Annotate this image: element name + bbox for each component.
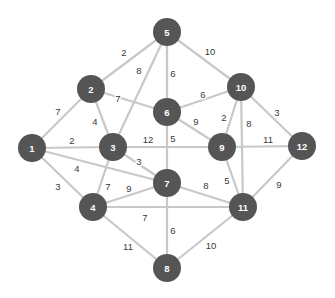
edge-weight-label: 9: [193, 116, 198, 127]
graph-node-3[interactable]: 3: [99, 133, 127, 161]
edge-weight-label: 8: [246, 118, 251, 129]
node-label: 11: [238, 202, 249, 213]
node-label: 1: [29, 143, 35, 154]
edge-weight-label: 7: [142, 212, 147, 223]
graph-node-2[interactable]: 2: [77, 75, 105, 103]
node-label: 5: [164, 27, 170, 38]
edge-weight-label: 6: [170, 68, 175, 79]
graph-svg-surface: 7722443344227777883312129977111166551010…: [0, 0, 335, 298]
edge-weight-label: 10: [205, 46, 216, 57]
edge-weight-label: 12: [143, 134, 154, 145]
graph-node-4[interactable]: 4: [79, 193, 107, 221]
edge-weight-label: 8: [203, 180, 208, 191]
edge-weight-label: 11: [263, 134, 273, 145]
edges-layer: [32, 32, 302, 268]
graph-node-10[interactable]: 10: [227, 73, 255, 101]
edge-weight-label: 7: [55, 106, 60, 117]
node-label: 3: [110, 142, 115, 153]
node-label: 2: [88, 84, 93, 95]
graph-node-7[interactable]: 7: [153, 169, 181, 197]
edge-weight-label: 10: [206, 240, 217, 251]
graph-node-12[interactable]: 12: [288, 132, 316, 160]
edge-weight-label: 3: [274, 107, 279, 118]
graph-edge: [93, 207, 167, 268]
graph-edge: [91, 32, 167, 89]
edge-weight-label: 4: [92, 116, 97, 127]
node-label: 4: [90, 202, 96, 213]
node-label: 10: [236, 82, 247, 93]
edge-weight-label: 9: [126, 183, 131, 194]
node-label: 8: [164, 263, 169, 274]
node-label: 12: [297, 141, 308, 152]
edge-weight-label: 2: [69, 135, 74, 146]
edge-weight-label: 7: [115, 93, 120, 104]
edge-weight-label: 8: [136, 65, 141, 76]
graph-node-6[interactable]: 6: [153, 98, 181, 126]
edge-weight-label: 3: [136, 156, 141, 167]
node-label: 7: [164, 178, 169, 189]
edge-weight-label: 9: [276, 179, 281, 190]
edge-weight-label: 7: [105, 181, 110, 192]
graph-node-9[interactable]: 9: [208, 133, 236, 161]
edge-weight-label: 11: [123, 241, 133, 252]
edge-weight-label: 3: [55, 181, 60, 192]
graph-node-1[interactable]: 1: [18, 134, 46, 162]
graph-edge: [167, 207, 243, 268]
edge-weight-label: 5: [170, 133, 175, 144]
edge-weight-label: 2: [221, 112, 226, 123]
graph-diagram: 7722443344227777883312129977111166551010…: [0, 0, 335, 298]
edge-weight-label: 4: [74, 163, 79, 174]
edge-weight-label: 2: [121, 47, 126, 58]
edge-weight-label: 5: [224, 175, 229, 186]
node-label: 9: [219, 142, 224, 153]
graph-node-5[interactable]: 5: [153, 18, 181, 46]
graph-node-11[interactable]: 11: [229, 193, 257, 221]
edge-weight-label: 6: [170, 225, 175, 236]
graph-edge: [241, 87, 243, 207]
edge-weight-label: 6: [200, 89, 205, 100]
graph-edge: [32, 148, 167, 183]
graph-node-8[interactable]: 8: [153, 254, 181, 282]
node-label: 6: [164, 107, 169, 118]
